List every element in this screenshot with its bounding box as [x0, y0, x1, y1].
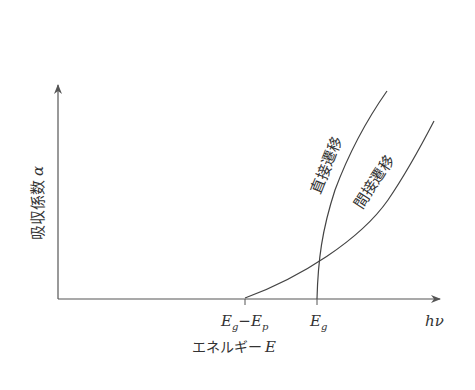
diagram-canvas: 吸収係数α 直接遷移 間接遷移 Eg−Ep Eg hν エネルギーE: [0, 0, 475, 390]
tick-label-eg-ep: Eg−Ep: [220, 312, 269, 332]
indirect-transition-label: 間接遷移: [350, 152, 398, 212]
y-axis-label: 吸収係数α: [29, 166, 47, 240]
absorption-diagram: 吸収係数α 直接遷移 間接遷移 Eg−Ep Eg hν エネルギーE: [0, 0, 475, 390]
tick-label-eg: Eg: [309, 312, 327, 332]
x-axis-end-label: hν: [425, 312, 444, 330]
direct-transition-label: 直接遷移: [307, 134, 346, 196]
x-axis-label: エネルギーE: [192, 338, 276, 356]
